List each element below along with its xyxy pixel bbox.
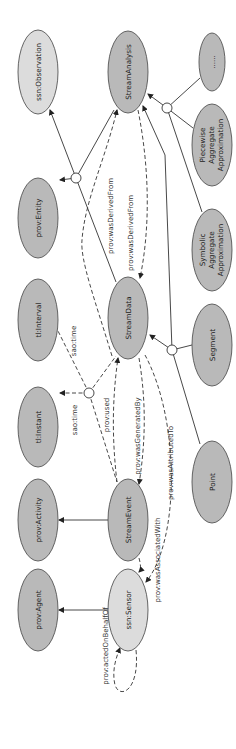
label-derived-from-2: prov:wasDerivedFrom — [127, 195, 135, 271]
label-generated-by: prov:wasGeneratedBy — [134, 397, 142, 474]
node-tl-interval: tl:Interval — [18, 279, 58, 361]
junction-streamdata — [167, 345, 177, 355]
svg-text:StreamEvent: StreamEvent — [124, 497, 133, 544]
label-derived-from-1: prov:wasDerivedFrom — [107, 178, 115, 254]
node-piecewise-aggregate-approximation: Piecewise Aggregate Approximation — [192, 104, 232, 186]
edge-associated-with — [139, 558, 141, 572]
svg-text:tl:Instant: tl:Instant — [34, 411, 43, 443]
node-stream-analysis: StreamAnalysis — [108, 31, 148, 113]
node-ssn-observation: ssn:Observation — [18, 30, 58, 114]
node-stream-event: StreamEvent — [108, 479, 148, 561]
svg-text:Aggregate: Aggregate — [207, 231, 216, 269]
edge-analysis-to-junction — [76, 110, 114, 178]
edge-ellipsis-to-junction — [167, 78, 200, 108]
svg-text:......: ...... — [208, 55, 217, 69]
node-segment: Segment — [192, 304, 232, 386]
edge-streamdata-time — [89, 356, 116, 393]
node-symbolic-aggregate-approximation: Symbolic Aggregate Approximation — [192, 209, 232, 291]
edge-used — [113, 358, 118, 482]
svg-text:prov:Activity: prov:Activity — [34, 497, 43, 543]
svg-text:Aggregate: Aggregate — [207, 126, 216, 164]
svg-text:prov:Agent: prov:Agent — [34, 590, 43, 629]
label-associated-with: prov:wasAssociatedWith — [154, 517, 162, 602]
label-acted-on-behalf-of: prov:actedOnBehalfOf — [102, 607, 110, 685]
node-prov-activity: prov:Activity — [18, 479, 58, 561]
label-attributed-to: prov:wasAttributedTo — [167, 426, 175, 500]
node-prov-entity: prov:Entity — [18, 178, 58, 258]
svg-text:tl:Interval: tl:Interval — [34, 303, 43, 338]
svg-text:prov:Entity: prov:Entity — [34, 198, 43, 238]
label-used: prov:used — [103, 398, 111, 432]
edge-acted-on-behalf-of — [114, 648, 137, 692]
svg-text:Approximation: Approximation — [216, 224, 225, 276]
label-sao-time-instant: sao:time — [71, 405, 79, 435]
svg-text:StreamData: StreamData — [124, 296, 133, 339]
svg-text:ssn:Observation: ssn:Observation — [34, 43, 43, 101]
svg-text:Point: Point — [208, 473, 217, 491]
junction-analysis — [162, 103, 172, 113]
svg-text:StreamAnalysis: StreamAnalysis — [124, 44, 133, 100]
junction-time — [84, 388, 94, 398]
node-ssn-sensor: ssn:Sensor — [108, 569, 148, 651]
edge-derived-from-2 — [138, 110, 147, 278]
node-ellipsis: ...... — [199, 33, 225, 91]
svg-text:Segment: Segment — [208, 329, 217, 362]
svg-text:Approximation: Approximation — [216, 119, 225, 171]
node-tl-instant: tl:Instant — [18, 387, 58, 467]
node-prov-agent: prov:Agent — [18, 569, 58, 651]
svg-text:Piecewise: Piecewise — [198, 127, 207, 163]
node-point: Point — [192, 441, 232, 523]
junction-entity — [71, 173, 81, 183]
label-sao-time-interval: sao:time — [70, 326, 78, 356]
ontology-diagram: ssn:Observation prov:Entity tl:Interval … — [0, 0, 236, 749]
svg-text:ssn:Sensor: ssn:Sensor — [124, 590, 133, 629]
node-stream-data: StreamData — [108, 277, 148, 359]
edge-junction-to-observation — [50, 110, 76, 178]
svg-text:Symbolic: Symbolic — [198, 234, 207, 267]
